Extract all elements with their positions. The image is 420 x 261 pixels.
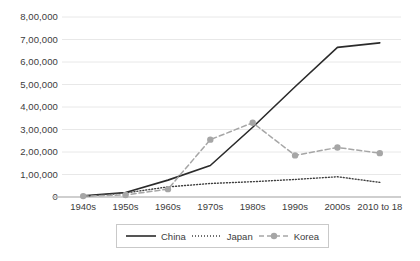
legend-swatch-japan-icon bbox=[192, 231, 222, 241]
series-line-korea bbox=[83, 123, 380, 196]
data-point-korea bbox=[165, 186, 171, 192]
chart-legend: ChinaJapanKorea bbox=[116, 224, 329, 248]
legend-label: China bbox=[161, 231, 186, 242]
line-chart: 01,00,0002,00,0003,00,0004,00,0005,00,00… bbox=[0, 0, 420, 261]
data-point-korea bbox=[292, 152, 298, 158]
data-point-korea bbox=[122, 192, 128, 198]
data-point-korea bbox=[207, 136, 213, 142]
data-point-korea bbox=[377, 150, 383, 156]
legend-label: Korea bbox=[294, 231, 319, 242]
data-point-korea bbox=[249, 120, 255, 126]
x-axis-tick: 2010 to 18 bbox=[353, 202, 407, 212]
gridlines bbox=[62, 17, 401, 175]
legend-item-korea[interactable]: Korea bbox=[259, 231, 319, 242]
legend-swatch-korea-icon bbox=[259, 231, 289, 241]
series-line-china bbox=[83, 43, 380, 196]
legend-label: Japan bbox=[227, 231, 253, 242]
data-point-korea bbox=[334, 144, 340, 150]
legend-item-china[interactable]: China bbox=[126, 231, 186, 242]
legend-swatch-china-icon bbox=[126, 231, 156, 241]
legend-item-japan[interactable]: Japan bbox=[192, 231, 253, 242]
data-point-korea bbox=[80, 193, 86, 199]
plot-area bbox=[0, 0, 420, 261]
x-axis-tick-labels: 1940s1950s1960s1970s1980s1990s2000s2010 … bbox=[0, 200, 420, 216]
data-series-layer bbox=[80, 43, 383, 199]
